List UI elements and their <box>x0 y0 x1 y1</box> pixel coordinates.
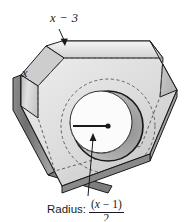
side-length-dimension-label: x <box>22 67 28 80</box>
numerator-operator: − <box>100 198 112 210</box>
hexagonal-nut-figure: x − 3 x Radius: (x − 1) 2 <box>0 0 189 221</box>
top-bevel-leader-stroke <box>59 29 64 40</box>
figure-drawing <box>0 0 189 221</box>
top-bevel-dimension-label: x − 3 <box>50 12 78 25</box>
radius-fraction-numerator: (x − 1) <box>89 199 124 211</box>
radius-prefix-text: Radius: <box>47 199 86 216</box>
hole-far-opening <box>70 91 132 153</box>
radius-fraction-denominator: 2 <box>104 213 110 222</box>
hole-radius-dimension-label: Radius: (x − 1) 2 <box>47 199 124 221</box>
hole-center-dot <box>105 123 110 128</box>
radius-fraction: (x − 1) 2 <box>89 199 124 221</box>
numerator-close-paren: ) <box>118 198 122 210</box>
